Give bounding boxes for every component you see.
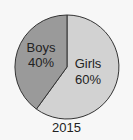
chart-title: 2015	[0, 120, 133, 135]
boys-label: Boys	[27, 40, 56, 55]
boys-value: 40%	[28, 55, 54, 70]
girls-value: 60%	[75, 72, 101, 87]
pie-chart: Boys 40% Girls 60%	[0, 0, 133, 140]
girls-label: Girls	[75, 56, 102, 71]
